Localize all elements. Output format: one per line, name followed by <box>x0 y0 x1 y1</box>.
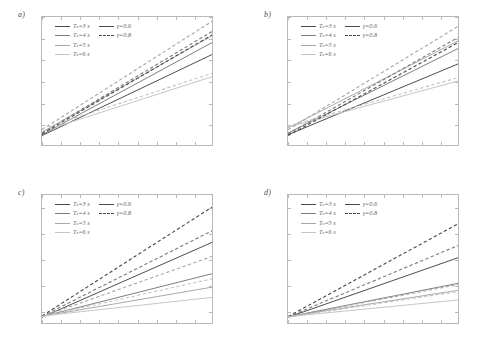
legend-entry-gamma: γ=0.8 <box>99 32 131 40</box>
legend-swatch-solid-icon <box>55 204 70 205</box>
chart-panel-a: a)11.522.533.541.11.21.31.41.51.61.71.81… <box>0 0 246 178</box>
series-line <box>288 246 458 317</box>
series-line <box>288 285 458 318</box>
chart-legend: Tₛ=3 sTₛ=4 sTₛ=5 sTₛ=6 sγ=0.6γ=0.8 <box>301 200 377 237</box>
legend-swatch-solid-icon <box>301 54 316 55</box>
legend-swatch-solid-icon <box>99 26 114 27</box>
chart-panel-b: b)11.522.533.541.11.21.31.41.51.61.71.81… <box>246 0 492 178</box>
legend-swatch-solid-icon <box>55 45 70 46</box>
legend-label: Tₛ=6 s <box>73 229 90 235</box>
legend-label: γ=0.6 <box>363 201 377 207</box>
legend-entry-ts: Tₛ=3 s <box>301 22 336 30</box>
legend-swatch-solid-icon <box>55 223 70 224</box>
legend-swatch-solid-icon <box>345 204 360 205</box>
legend-label: Tₛ=6 s <box>319 51 336 57</box>
legend-entry-gamma: γ=0.8 <box>99 210 131 218</box>
series-line <box>42 279 212 317</box>
legend-label: γ=0.6 <box>117 201 131 207</box>
legend-label: γ=0.8 <box>363 210 377 216</box>
legend-label: Tₛ=3 s <box>319 23 336 29</box>
legend-label: Tₛ=5 s <box>319 42 336 48</box>
series-line <box>288 81 458 127</box>
legend-entry-ts: Tₛ=4 s <box>55 210 90 218</box>
legend-entry-gamma: γ=0.6 <box>99 200 131 208</box>
chart-panel-c: c)2468101.11.21.31.41.51.61.71.81.92.0Tₛ… <box>0 178 246 356</box>
legend-swatch-solid-icon <box>99 204 114 205</box>
legend-column-ts: Tₛ=3 sTₛ=4 sTₛ=5 sTₛ=6 s <box>301 200 336 237</box>
chart-legend: Tₛ=3 sTₛ=4 sTₛ=5 sTₛ=6 sγ=0.6γ=0.8 <box>55 22 131 59</box>
legend-label: Tₛ=4 s <box>319 32 336 38</box>
legend-label: γ=0.8 <box>363 32 377 38</box>
legend-entry-ts: Tₛ=4 s <box>301 210 336 218</box>
legend-swatch-solid-icon <box>55 54 70 55</box>
legend-swatch-solid-icon <box>55 35 70 36</box>
legend-entry-gamma: γ=0.6 <box>345 22 377 30</box>
legend-entry-gamma: γ=0.8 <box>345 32 377 40</box>
legend-label: Tₛ=5 s <box>319 220 336 226</box>
legend-column-gamma: γ=0.6γ=0.8 <box>99 22 131 59</box>
legend-entry-ts: Tₛ=5 s <box>55 41 90 49</box>
legend-entry-gamma: γ=0.6 <box>345 200 377 208</box>
legend-label: γ=0.8 <box>117 210 131 216</box>
legend-label: Tₛ=3 s <box>73 201 90 207</box>
legend-swatch-solid-icon <box>55 213 70 214</box>
series-line <box>42 256 212 316</box>
legend-label: Tₛ=4 s <box>73 32 90 38</box>
legend-label: γ=0.6 <box>363 23 377 29</box>
legend-column-gamma: γ=0.6γ=0.8 <box>345 200 377 237</box>
legend-swatch-solid-icon <box>301 204 316 205</box>
panel-label-d: d) <box>264 188 271 197</box>
legend-swatch-solid-icon <box>301 213 316 214</box>
legend-label: Tₛ=3 s <box>73 23 90 29</box>
legend-swatch-dashed-icon <box>345 35 360 36</box>
legend-label: Tₛ=3 s <box>319 201 336 207</box>
legend-entry-ts: Tₛ=6 s <box>55 51 90 59</box>
legend-swatch-solid-icon <box>301 26 316 27</box>
panel-label-a: a) <box>18 10 25 19</box>
legend-label: Tₛ=5 s <box>73 220 90 226</box>
legend-swatch-solid-icon <box>301 223 316 224</box>
legend-label: Tₛ=5 s <box>73 42 90 48</box>
legend-label: Tₛ=4 s <box>319 210 336 216</box>
legend-swatch-dashed-icon <box>99 213 114 214</box>
legend-label: Tₛ=6 s <box>319 229 336 235</box>
legend-label: Tₛ=6 s <box>73 51 90 57</box>
series-line <box>288 292 458 317</box>
plot-area-c: 2468101.11.21.31.41.51.61.71.81.92.0Tₛ=3… <box>41 194 213 324</box>
legend-column-ts: Tₛ=3 sTₛ=4 sTₛ=5 sTₛ=6 s <box>55 200 90 237</box>
series-line <box>42 287 212 316</box>
legend-label: Tₛ=4 s <box>73 210 90 216</box>
legend-swatch-dashed-icon <box>99 35 114 36</box>
legend-swatch-solid-icon <box>345 26 360 27</box>
panel-label-b: b) <box>264 10 271 19</box>
legend-swatch-solid-icon <box>55 26 70 27</box>
legend-label: γ=0.6 <box>117 23 131 29</box>
plot-area-d: 2468101.11.21.31.41.51.61.71.81.92.0Tₛ=3… <box>287 194 459 324</box>
legend-swatch-solid-icon <box>301 232 316 233</box>
legend-entry-ts: Tₛ=6 s <box>301 229 336 237</box>
legend-entry-ts: Tₛ=3 s <box>55 200 90 208</box>
plot-area-a: 11.522.533.541.11.21.31.41.51.61.71.81.9… <box>41 16 213 146</box>
legend-entry-ts: Tₛ=3 s <box>55 22 90 30</box>
legend-entry-ts: Tₛ=4 s <box>55 32 90 40</box>
series-line <box>42 231 212 317</box>
legend-entry-ts: Tₛ=5 s <box>301 41 336 49</box>
chart-legend: Tₛ=3 sTₛ=4 sTₛ=5 sTₛ=6 sγ=0.6γ=0.8 <box>301 22 377 59</box>
plot-area-b: 11.522.533.541.11.21.31.41.51.61.71.81.9… <box>287 16 459 146</box>
legend-label: γ=0.8 <box>117 32 131 38</box>
legend-entry-ts: Tₛ=5 s <box>55 219 90 227</box>
legend-entry-gamma: γ=0.8 <box>345 210 377 218</box>
series-line <box>288 64 458 135</box>
legend-swatch-solid-icon <box>301 45 316 46</box>
legend-column-ts: Tₛ=3 sTₛ=4 sTₛ=5 sTₛ=6 s <box>55 22 90 59</box>
legend-entry-gamma: γ=0.6 <box>99 22 131 30</box>
legend-column-gamma: γ=0.6γ=0.8 <box>99 200 131 237</box>
legend-entry-ts: Tₛ=6 s <box>301 51 336 59</box>
legend-entry-ts: Tₛ=6 s <box>55 229 90 237</box>
legend-entry-ts: Tₛ=4 s <box>301 32 336 40</box>
legend-swatch-solid-icon <box>55 232 70 233</box>
legend-column-gamma: γ=0.6γ=0.8 <box>345 22 377 59</box>
legend-swatch-solid-icon <box>301 35 316 36</box>
panel-label-c: c) <box>18 188 25 197</box>
figure-panel-grid: a)11.522.533.541.11.21.31.41.51.61.71.81… <box>0 0 492 357</box>
